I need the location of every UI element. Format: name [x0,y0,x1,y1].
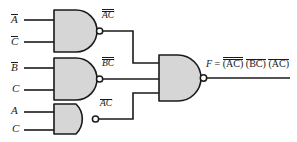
label-input-c-bar: C [11,35,18,47]
gate-4-nand[interactable] [159,55,207,101]
circuit-svg [0,0,297,142]
label-input-b-bar: B [11,61,18,73]
gate-1-nand[interactable] [54,10,103,52]
gate-2-nand[interactable] [54,58,103,100]
label-input-c-plain: C [12,83,19,94]
circuit-diagram-canvas: A C B C A C AC BC AC F = (AC) (BC) (AC) [0,0,297,142]
gate-3-inversion-bubble [92,116,98,122]
gate-1-inversion-bubble [97,28,103,34]
label-input-c-plain-2: C [12,123,19,134]
gate-4-inversion-bubble [200,75,206,81]
label-gate1-output: AC [102,8,114,21]
label-input-a-bar: A [11,13,18,25]
label-gate3-output: AC [100,98,112,109]
gate-2-inversion-bubble [97,76,103,82]
gate-2-body [54,58,97,100]
gate-1-body [54,10,97,52]
expr-term-1: (AC) [223,58,244,69]
label-input-a-plain: A [11,105,18,116]
gate-4-body [159,55,201,101]
expr-term-2: (BC) [246,58,266,69]
gate-3-body [54,104,82,134]
label-gate2-output: BC [102,56,114,69]
label-output-expression: F = (AC) (BC) (AC) [206,56,289,69]
expr-term-3: (AC) [268,58,289,69]
gate-3-nand[interactable] [54,104,99,134]
